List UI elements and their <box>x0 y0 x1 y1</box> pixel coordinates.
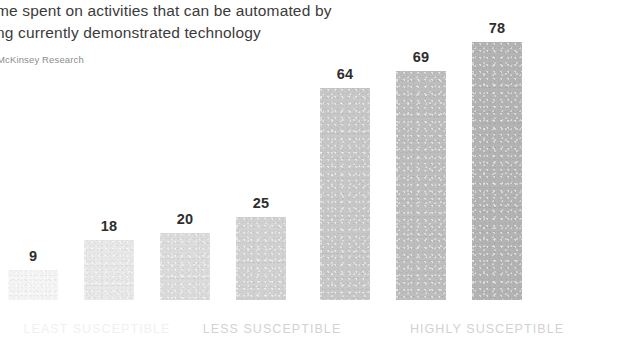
bar <box>8 270 58 300</box>
bar <box>84 240 134 300</box>
category-axis-label: LEAST SUSCEPTIBLE <box>23 322 170 336</box>
bar-group: 64 <box>320 42 370 300</box>
bar-group: 25 <box>236 42 286 300</box>
bar-value-label: 64 <box>337 66 353 82</box>
bar-value-label: 78 <box>489 20 505 36</box>
chart-plot-area: 9182025646978LEAST SUSCEPTIBLELESS SUSCE… <box>0 0 644 345</box>
bar-value-label: 9 <box>29 248 37 264</box>
category-axis-label: LESS SUSCEPTIBLE <box>203 322 342 336</box>
bar-value-label: 18 <box>101 218 117 234</box>
bar-group: 18 <box>84 42 134 300</box>
bar-chart-figure: me spent on activities that can be autom… <box>0 0 644 345</box>
bar-value-label: 69 <box>413 49 429 65</box>
bar-value-label: 25 <box>253 195 269 211</box>
bar-group: 78 <box>472 42 522 300</box>
bar-group: 69 <box>396 42 446 300</box>
bar-value-label: 20 <box>177 211 193 227</box>
bar <box>320 88 370 300</box>
bar-group: 20 <box>160 42 210 300</box>
category-axis-label: HIGHLY SUSCEPTIBLE <box>410 322 564 336</box>
bar <box>472 42 522 300</box>
bar <box>236 217 286 300</box>
bar <box>160 233 210 300</box>
bar <box>396 71 446 300</box>
bar-group: 9 <box>8 42 58 300</box>
